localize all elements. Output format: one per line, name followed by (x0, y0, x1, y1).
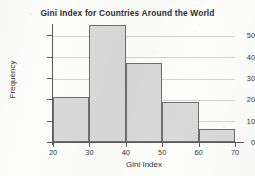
x-tick-label-20: 20 (43, 148, 63, 157)
y-tick-label-30: 30 (211, 74, 255, 83)
y-tick-label-20: 20 (211, 95, 255, 104)
y-tick-label-40: 40 (211, 53, 255, 62)
x-tick-mark-60 (199, 143, 200, 147)
y-axis-title: Frequency (8, 45, 17, 115)
histogram-bar (162, 102, 198, 142)
y-tick-mark-30 (47, 78, 52, 79)
x-tick-label-60: 60 (189, 148, 209, 157)
chart-title: Gini Index for Countries Around the Worl… (0, 8, 255, 18)
y-tick-label-50: 50 (211, 31, 255, 40)
x-tick-mark-70 (235, 143, 236, 147)
y-tick-mark-0 (47, 142, 52, 143)
y-tick-mark-10 (47, 121, 52, 122)
x-tick-mark-30 (89, 143, 90, 147)
gridline-50 (53, 36, 235, 37)
x-tick-label-30: 30 (79, 148, 99, 157)
x-tick-label-40: 40 (116, 148, 136, 157)
x-tick-label-70: 70 (225, 148, 245, 157)
x-tick-mark-20 (53, 143, 54, 147)
histogram-bar (53, 97, 89, 142)
histogram-bar (126, 63, 162, 142)
y-tick-mark-20 (47, 99, 52, 100)
y-tick-mark-40 (47, 57, 52, 58)
chart-figure: Gini Index for Countries Around the Worl… (0, 0, 255, 176)
y-tick-label-10: 10 (211, 117, 255, 126)
y-axis-line (52, 24, 53, 145)
y-tick-mark-50 (47, 35, 52, 36)
plot-area (53, 24, 235, 142)
x-tick-mark-40 (126, 143, 127, 147)
x-tick-label-50: 50 (152, 148, 172, 157)
x-axis-title: Gini Index (53, 160, 235, 169)
x-tick-mark-50 (162, 143, 163, 147)
y-tick-label-0: 0 (211, 138, 255, 147)
histogram-bar (89, 25, 125, 142)
gridline-40 (53, 57, 235, 58)
